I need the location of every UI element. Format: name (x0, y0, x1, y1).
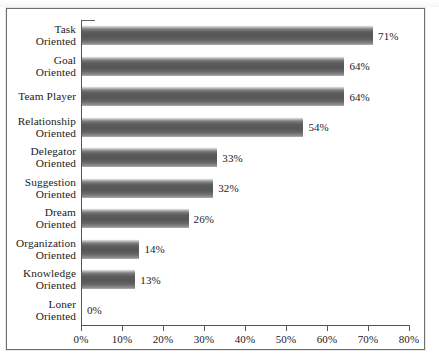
bar-value-label: 13% (140, 273, 160, 285)
x-tick (286, 325, 287, 331)
bar-row: Organization Oriented14% (7, 234, 426, 265)
bar (82, 148, 217, 167)
x-tick-label: 30% (194, 333, 214, 345)
x-tick (204, 325, 205, 331)
bar-value-label: 0% (87, 304, 102, 316)
bar-value-label: 64% (349, 60, 369, 72)
x-tick-label: 50% (276, 333, 296, 345)
x-tick-label: 40% (235, 333, 255, 345)
x-tick-label: 20% (153, 333, 173, 345)
bar-value-label: 64% (349, 90, 369, 102)
x-tick-label: 80% (399, 333, 419, 345)
x-tick (327, 325, 328, 331)
bar-row: Task Oriented71% (7, 20, 426, 51)
bar (82, 117, 303, 136)
bar-chart: Task Oriented71%Goal Oriented64%Team Pla… (7, 9, 426, 351)
bar (82, 178, 213, 197)
category-label: Task Oriented (0, 23, 76, 47)
bar-row: Goal Oriented64% (7, 51, 426, 82)
scan-artifact (0, 0, 439, 7)
category-label: Delegator Oriented (0, 145, 76, 169)
bar-row: Relationship Oriented54% (7, 112, 426, 143)
bar-value-label: 14% (144, 243, 164, 255)
bar-rows: Task Oriented71%Goal Oriented64%Team Pla… (7, 20, 426, 325)
bar-row: Suggestion Oriented32% (7, 173, 426, 204)
bar-value-label: 26% (194, 212, 214, 224)
x-axis-ticks: 0%10%20%30%40%50%60%70%80% (7, 325, 426, 351)
category-label: Organization Oriented (0, 237, 76, 261)
category-label: Knowledge Oriented (0, 267, 76, 291)
bar-value-label: 71% (378, 29, 398, 41)
x-tick-label: 70% (358, 333, 378, 345)
bar-row: Dream Oriented26% (7, 203, 426, 234)
category-label: Suggestion Oriented (0, 176, 76, 200)
bar (82, 26, 373, 45)
bar-value-label: 54% (308, 121, 328, 133)
category-label: Team Player (0, 90, 76, 102)
category-label: Loner Oriented (0, 298, 76, 322)
bar-row: Team Player64% (7, 81, 426, 112)
chart-frame: Task Oriented71%Goal Oriented64%Team Pla… (6, 8, 425, 350)
bar (82, 239, 139, 258)
bar-value-label: 32% (218, 182, 238, 194)
x-tick-label: 60% (317, 333, 337, 345)
x-tick (81, 325, 82, 331)
x-tick (368, 325, 369, 331)
category-label: Relationship Oriented (0, 115, 76, 139)
x-tick-label: 0% (74, 333, 89, 345)
bar-row: Loner Oriented0% (7, 295, 426, 326)
bar (82, 56, 344, 75)
bar (82, 270, 135, 289)
bar (82, 87, 344, 106)
x-tick-label: 10% (112, 333, 132, 345)
x-tick (409, 325, 410, 331)
bar-value-label: 33% (222, 151, 242, 163)
x-tick (122, 325, 123, 331)
category-label: Goal Oriented (0, 54, 76, 78)
bar (82, 209, 189, 228)
x-tick (245, 325, 246, 331)
x-tick (163, 325, 164, 331)
category-label: Dream Oriented (0, 206, 76, 230)
bar-row: Delegator Oriented33% (7, 142, 426, 173)
bar-row: Knowledge Oriented13% (7, 264, 426, 295)
